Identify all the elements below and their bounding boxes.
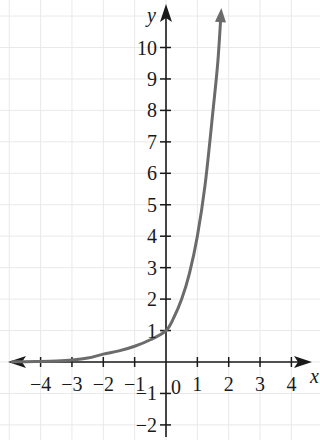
y-tick-label: −1 [136, 383, 157, 403]
curve-series [12, 8, 226, 362]
y-tick-label: 5 [147, 195, 157, 215]
x-tick-label: 2 [224, 374, 234, 394]
y-tick-label: −2 [136, 415, 157, 435]
x-tick-label: −2 [93, 374, 114, 394]
y-tick-label: 4 [147, 226, 157, 246]
y-tick-label: 7 [147, 132, 157, 152]
origin-label: 0 [171, 377, 181, 397]
exponential-function-graph: y x 0 −4−3−2−11234 10987654321−1−2 [0, 0, 320, 440]
y-axis-label: y [147, 5, 156, 25]
y-tick-label: 10 [137, 38, 157, 58]
x-tick-label: 4 [286, 374, 296, 394]
x-tick-label: 3 [255, 374, 265, 394]
y-tick-label: 1 [147, 321, 157, 341]
y-tick-label: 9 [147, 69, 157, 89]
axes [8, 4, 312, 437]
y-tick-label: 8 [147, 100, 157, 120]
grid-lines-horizontal [0, 16, 320, 425]
x-axis-label: x [310, 366, 319, 386]
x-tick-label: 1 [192, 374, 202, 394]
y-tick-label: 2 [147, 289, 157, 309]
y-tick-label: 3 [147, 258, 157, 278]
y-tick-label: 6 [147, 163, 157, 183]
x-tick-label: −3 [61, 374, 82, 394]
x-tick-label: −4 [30, 374, 51, 394]
grid-lines-vertical [9, 0, 291, 440]
